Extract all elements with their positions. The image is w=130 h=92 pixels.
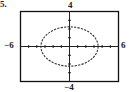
plot-area — [0, 0, 130, 92]
axes — [21, 12, 119, 82]
